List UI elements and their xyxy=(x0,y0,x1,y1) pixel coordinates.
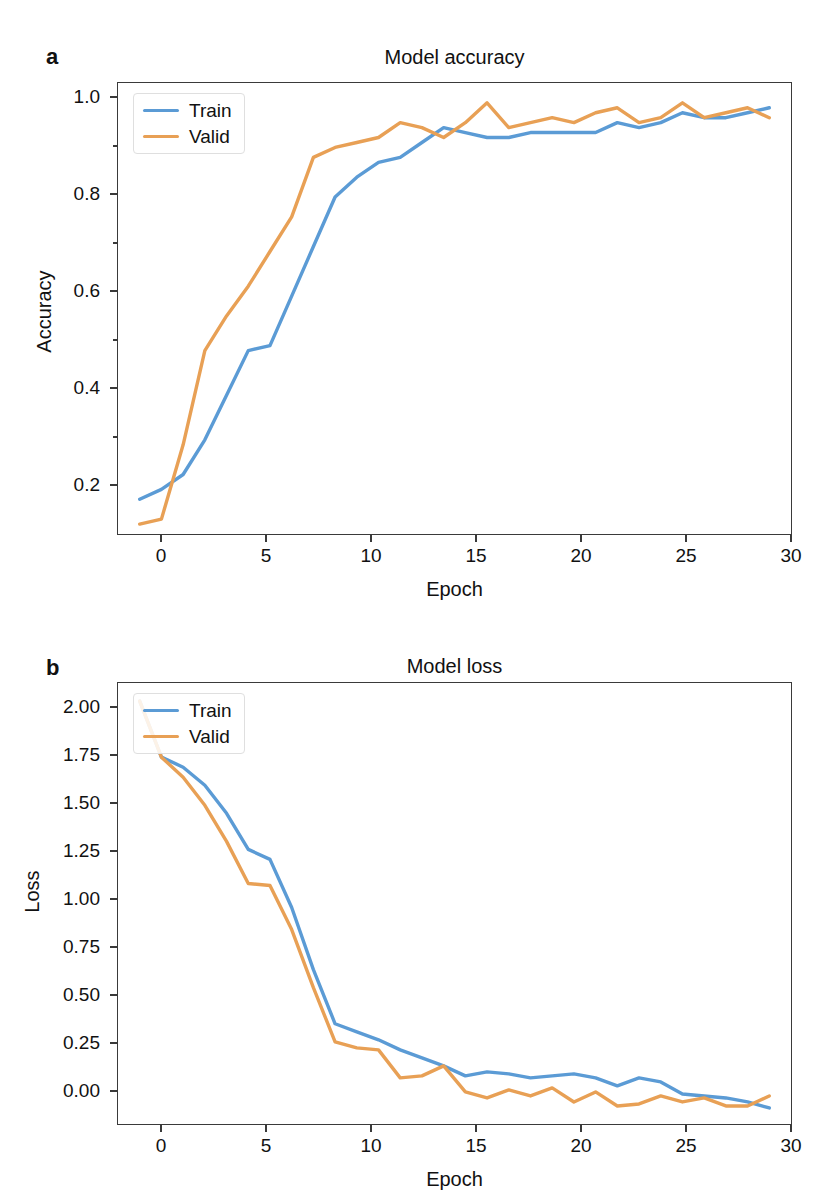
y-tick-mark xyxy=(110,290,117,292)
legend-swatch-train-icon xyxy=(143,709,179,712)
series-line-valid xyxy=(140,103,770,524)
y-tick-mark xyxy=(110,387,117,389)
y-axis-label-accuracy: Accuracy xyxy=(33,252,56,372)
x-tick-mark xyxy=(370,535,372,542)
panel-accuracy: a Model accuracy Accuracy 1.0 0.8 0.6 0.… xyxy=(0,0,837,620)
legend-accuracy: Train Valid xyxy=(133,93,245,154)
y-tick-label: 0.75 xyxy=(14,936,100,958)
y-tick-mark xyxy=(110,96,117,98)
figure-container: a Model accuracy Accuracy 1.0 0.8 0.6 0.… xyxy=(0,0,837,1202)
y-tick-label: 0.50 xyxy=(14,984,100,1006)
legend-label-train: Train xyxy=(189,101,232,120)
x-tick-mark xyxy=(580,535,582,542)
y-tick-label: 0.25 xyxy=(14,1032,100,1054)
x-tick-label: 10 xyxy=(360,1135,381,1157)
chart-title-accuracy: Model accuracy xyxy=(117,46,792,69)
legend-swatch-valid-icon xyxy=(143,135,179,138)
y-tick-label: 1.25 xyxy=(14,840,100,862)
x-tick-label: 25 xyxy=(675,545,696,567)
x-axis-label-loss: Epoch xyxy=(117,1168,792,1191)
x-tick-label: 5 xyxy=(261,545,272,567)
y-tick-mark xyxy=(110,484,117,486)
x-tick-label: 5 xyxy=(261,1135,272,1157)
x-tick-mark xyxy=(370,1125,372,1132)
y-tick-label: 0.8 xyxy=(30,183,100,205)
x-tick-mark xyxy=(685,535,687,542)
legend-swatch-train-icon xyxy=(143,109,179,112)
y-tick-mark xyxy=(110,193,117,195)
series-line-train xyxy=(140,701,770,1108)
legend-item-valid[interactable]: Valid xyxy=(143,127,232,146)
y-tick-label: 1.00 xyxy=(14,888,100,910)
y-tick-mark xyxy=(110,850,117,852)
y-tick-label: 2.00 xyxy=(14,696,100,718)
y-tick-mark xyxy=(110,802,117,804)
y-tick-mark xyxy=(110,946,117,948)
y-tick-label: 0.00 xyxy=(14,1080,100,1102)
x-tick-label: 20 xyxy=(570,1135,591,1157)
legend-label-valid: Valid xyxy=(189,127,230,146)
x-tick-label: 15 xyxy=(465,545,486,567)
x-tick-mark xyxy=(475,535,477,542)
x-tick-label: 30 xyxy=(780,545,801,567)
x-tick-label: 10 xyxy=(360,545,381,567)
x-tick-label: 20 xyxy=(570,545,591,567)
y-tick-mark xyxy=(110,754,117,756)
x-tick-label: 15 xyxy=(465,1135,486,1157)
x-tick-mark xyxy=(265,1125,267,1132)
x-tick-label: 0 xyxy=(156,545,167,567)
y-tick-mark xyxy=(110,706,117,708)
legend-item-valid[interactable]: Valid xyxy=(143,727,232,746)
x-tick-mark xyxy=(160,535,162,542)
y-tick-label: 0.4 xyxy=(30,377,100,399)
legend-item-train[interactable]: Train xyxy=(143,101,232,120)
x-tick-mark xyxy=(475,1125,477,1132)
x-tick-mark xyxy=(790,535,792,542)
legend-swatch-valid-icon xyxy=(143,735,179,738)
y-tick-label: 1.75 xyxy=(14,744,100,766)
y-tick-mark xyxy=(110,898,117,900)
x-tick-mark xyxy=(160,1125,162,1132)
x-tick-mark xyxy=(790,1125,792,1132)
x-tick-label: 0 xyxy=(156,1135,167,1157)
legend-item-train[interactable]: Train xyxy=(143,701,232,720)
x-tick-mark xyxy=(265,535,267,542)
y-tick-label: 0.2 xyxy=(30,474,100,496)
x-tick-label: 25 xyxy=(675,1135,696,1157)
x-axis-label-accuracy: Epoch xyxy=(117,578,792,601)
y-tick-label: 1.0 xyxy=(30,86,100,108)
chart-title-loss: Model loss xyxy=(117,655,792,678)
x-tick-mark xyxy=(580,1125,582,1132)
y-tick-mark xyxy=(110,1090,117,1092)
x-tick-label: 30 xyxy=(780,1135,801,1157)
y-tick-mark xyxy=(110,994,117,996)
y-tick-label: 1.50 xyxy=(14,792,100,814)
panel-loss: b Model loss Loss 2.00 1.75 1.50 1.25 1.… xyxy=(0,600,837,1202)
legend-label-train: Train xyxy=(189,701,232,720)
panel-letter-b: b xyxy=(46,655,59,681)
series-line-valid xyxy=(140,701,770,1106)
y-tick-label: 0.6 xyxy=(30,280,100,302)
y-tick-mark xyxy=(110,1042,117,1044)
x-tick-mark xyxy=(685,1125,687,1132)
legend-loss: Train Valid xyxy=(133,693,245,754)
legend-label-valid: Valid xyxy=(189,727,230,746)
panel-letter-a: a xyxy=(46,44,58,70)
